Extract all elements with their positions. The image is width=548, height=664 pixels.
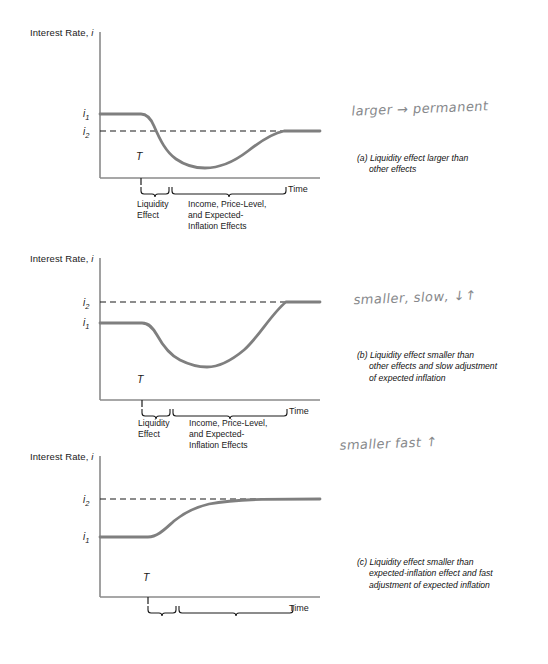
chart-a: Interest Rate, i i1 i2 T Time Liquidity …	[0, 0, 548, 230]
caption-c-cont2: adjustment of expected inflation	[357, 580, 548, 591]
y-axis-title-c: Interest Rate, i	[30, 451, 94, 462]
tick-label-i1-b: i1	[83, 317, 89, 331]
tick-label-i1-c: i1	[83, 531, 89, 545]
caption-b-cont: other effects and slow adjustment	[357, 361, 548, 372]
tick-label-i2-b: i2	[83, 297, 90, 311]
bracket-income-price-c	[179, 606, 293, 616]
x-axis-title-a: Time	[288, 184, 308, 194]
y-axis-title-b: Interest Rate, i	[30, 253, 94, 264]
interest-rate-curve-a	[100, 114, 320, 168]
panel-a: Interest Rate, i i1 i2 T Time Liquidity …	[0, 0, 548, 230]
t-label-c: T	[143, 571, 151, 583]
caption-a-cont: other effects	[357, 164, 548, 175]
caption-a-lead: (a) Liquidity effect larger than	[357, 153, 548, 164]
bracket-label-income-a-line2: and Expected-	[188, 210, 244, 220]
caption-a: (a) Liquidity effect larger than other e…	[357, 153, 548, 176]
caption-c-cont: expected-inflation effect and fast	[357, 568, 548, 579]
bracket-label-liquidity-a-line2: Effect	[137, 210, 159, 220]
panel-c: Interest Rate, i i2 i1 T Time Liquidity …	[0, 424, 548, 664]
bracket-income-wide-a	[172, 187, 286, 197]
chart-c: Interest Rate, i i2 i1 T Time	[0, 424, 548, 664]
bracket-label-income-a-line1: Income, Price-Level,	[188, 199, 266, 209]
tick-label-i2-c: i2	[83, 494, 90, 508]
x-axis-title-b: Time	[289, 406, 309, 416]
caption-c: (c) Liquidity effect smaller than expect…	[357, 557, 548, 591]
caption-b-cont2: of expected inflation	[357, 373, 548, 384]
chart-b: Interest Rate, i i2 i1 T Time Liquidity …	[0, 228, 548, 428]
y-axis-title-a: Interest Rate, i	[30, 27, 94, 38]
bracket-liquidity-a	[141, 187, 169, 197]
bracket-liquidity-expected-c	[148, 606, 176, 616]
t-label-b: T	[137, 373, 145, 385]
interest-rate-curve-b	[100, 302, 320, 367]
t-label-a: T	[136, 150, 144, 162]
caption-b: (b) Liquidity effect smaller than other …	[357, 350, 548, 384]
panel-b: Interest Rate, i i2 i1 T Time Liquidity …	[0, 228, 548, 428]
interest-rate-curve-c	[100, 499, 320, 537]
tick-label-i1-a: i1	[83, 108, 89, 122]
bracket-label-liquidity-a-line1: Liquidity	[137, 199, 169, 209]
caption-c-lead: (c) Liquidity effect smaller than	[357, 557, 548, 568]
tick-label-i2-a: i2	[83, 126, 90, 140]
x-axis-title-c: Time	[289, 603, 309, 613]
caption-b-lead: (b) Liquidity effect smaller than	[357, 350, 548, 361]
